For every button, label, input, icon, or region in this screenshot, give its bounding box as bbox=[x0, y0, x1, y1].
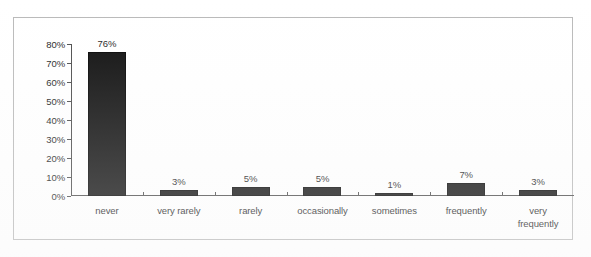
bar[interactable] bbox=[88, 52, 126, 196]
bar[interactable] bbox=[519, 190, 557, 196]
bar-slot: 76% bbox=[71, 44, 143, 196]
bar-slot: 3% bbox=[143, 44, 215, 196]
y-axis-tick-label: 80% bbox=[46, 39, 65, 50]
bar-value-label: 3% bbox=[531, 176, 545, 187]
x-axis-category-label: frequently bbox=[430, 205, 502, 218]
x-axis-category-label: very frequently bbox=[502, 205, 574, 230]
x-axis-category-label: very rarely bbox=[143, 205, 215, 218]
bar[interactable] bbox=[160, 190, 198, 196]
x-axis-category-label: sometimes bbox=[358, 205, 430, 218]
bar-value-label: 76% bbox=[98, 38, 117, 49]
bar-value-label: 5% bbox=[244, 173, 258, 184]
plot-area: 0%10%20%30%40%50%60%70%80% 76%3%5%5%1%7%… bbox=[71, 44, 574, 196]
y-axis-tick-label: 50% bbox=[46, 96, 65, 107]
bar-value-label: 7% bbox=[459, 169, 473, 180]
y-axis-tick-label: 70% bbox=[46, 58, 65, 69]
y-axis-tick-label: 20% bbox=[46, 153, 65, 164]
x-axis-category-label: rarely bbox=[215, 205, 287, 218]
x-axis-category-label: never bbox=[71, 205, 143, 218]
y-axis-tick-label: 10% bbox=[46, 172, 65, 183]
chart-frame: 0%10%20%30%40%50%60%70%80% 76%3%5%5%1%7%… bbox=[13, 17, 573, 240]
bar-value-label: 5% bbox=[316, 173, 330, 184]
x-axis-category-label: occasionally bbox=[287, 205, 359, 218]
bar-value-label: 1% bbox=[388, 179, 402, 190]
bar[interactable] bbox=[303, 187, 341, 197]
y-axis-tick-label: 40% bbox=[46, 115, 65, 126]
y-axis-tick-label: 30% bbox=[46, 134, 65, 145]
bar[interactable] bbox=[375, 193, 413, 196]
bar[interactable] bbox=[447, 183, 485, 196]
bar[interactable] bbox=[232, 187, 270, 197]
y-axis-tick-label: 60% bbox=[46, 77, 65, 88]
bar-slot: 5% bbox=[287, 44, 359, 196]
bar-slot: 3% bbox=[502, 44, 574, 196]
bar-value-label: 3% bbox=[172, 176, 186, 187]
y-axis-tick-label: 0% bbox=[51, 191, 65, 202]
y-axis-tick bbox=[67, 196, 71, 197]
bar-slot: 7% bbox=[430, 44, 502, 196]
bar-slot: 5% bbox=[215, 44, 287, 196]
bar-slot: 1% bbox=[358, 44, 430, 196]
